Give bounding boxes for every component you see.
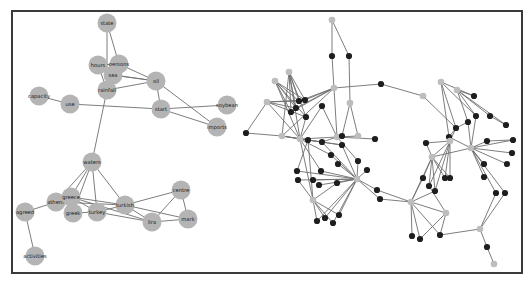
dark-node — [316, 182, 322, 188]
dark-node — [319, 139, 325, 145]
word-node-lira: lira — [143, 213, 162, 232]
dark-node — [328, 152, 334, 158]
word-node-waters: waters — [83, 153, 102, 172]
dark-node — [314, 218, 320, 224]
dark-node — [372, 136, 378, 142]
dark-node — [453, 125, 459, 131]
edge — [342, 145, 357, 179]
dark-node — [302, 97, 308, 103]
light-node — [447, 138, 454, 145]
edge — [411, 178, 423, 202]
edge — [480, 193, 505, 229]
node-label: waters — [83, 159, 101, 165]
dark-node — [509, 150, 515, 156]
light-node — [454, 87, 461, 94]
word-node-greece: greece — [62, 188, 81, 207]
node-label: soybean — [216, 102, 238, 109]
light-node — [443, 210, 450, 217]
dark-node — [484, 244, 490, 250]
node-label: state — [100, 20, 113, 26]
word-node-centre: centre — [172, 181, 191, 200]
dark-node — [296, 98, 302, 104]
edge — [457, 90, 506, 125]
light-node — [438, 79, 445, 86]
edge — [471, 116, 476, 148]
node-label: turkey — [89, 209, 106, 216]
network-diagram: statehourspersonssearainfalloilcapacityu… — [0, 0, 530, 281]
dark-node — [409, 233, 415, 239]
edge — [432, 148, 471, 157]
edge — [440, 229, 480, 235]
dark-node — [465, 119, 471, 125]
word-node-activities: activities — [23, 247, 47, 266]
light-node — [264, 99, 271, 106]
edge — [441, 82, 449, 137]
dark-node — [473, 113, 479, 119]
edge — [322, 106, 337, 137]
dark-node — [319, 103, 325, 109]
dark-node — [305, 137, 311, 143]
node-label: greece — [62, 194, 80, 201]
dark-node — [432, 188, 438, 194]
edge — [300, 117, 306, 139]
dark-node — [295, 177, 301, 183]
word-node-state: state — [98, 14, 117, 33]
word-node-rainfall: rainfall — [98, 81, 117, 100]
word-node-capacity: capacity — [28, 87, 50, 106]
light-node — [310, 197, 317, 204]
node-label: hours — [91, 62, 106, 68]
node-label: centre — [173, 187, 190, 193]
dark-node — [243, 130, 249, 136]
word-node-soybean: soybean — [216, 96, 238, 115]
light-node — [329, 17, 336, 24]
dark-node — [339, 142, 345, 148]
dark-node — [310, 177, 316, 183]
light-node — [477, 226, 484, 233]
dark-node — [303, 114, 309, 120]
node-label: greek — [66, 210, 81, 217]
word-node-start: start — [152, 100, 171, 119]
word-node-imports: imports — [207, 118, 227, 137]
node-label: mark — [181, 216, 194, 222]
light-node — [408, 199, 415, 206]
edge — [322, 142, 357, 179]
word-node-greek: greek — [64, 204, 83, 223]
dark-node — [493, 190, 499, 196]
dark-node — [510, 137, 516, 143]
dark-node — [330, 220, 336, 226]
edge — [411, 191, 435, 202]
dark-node — [374, 187, 380, 193]
light-node — [420, 93, 427, 100]
dark-node — [318, 168, 324, 174]
edge — [246, 102, 267, 133]
edge — [468, 122, 471, 148]
edge — [308, 140, 313, 200]
edge — [92, 90, 107, 162]
node-label: agreed — [16, 209, 34, 216]
light-node — [491, 261, 498, 268]
word-node-oil: oil — [147, 72, 166, 91]
node-label: activities — [23, 253, 47, 259]
dark-node — [329, 53, 335, 59]
word-node-use: use — [61, 95, 80, 114]
edge — [246, 133, 282, 136]
node-label: capacity — [28, 93, 50, 100]
dark-node — [426, 183, 432, 189]
dark-node — [336, 212, 342, 218]
light-node — [347, 100, 354, 107]
edge — [70, 104, 161, 109]
edge — [349, 56, 350, 103]
edge — [334, 84, 381, 88]
edge — [332, 20, 349, 56]
dark-node — [437, 232, 443, 238]
edge — [325, 179, 357, 218]
dark-node — [417, 236, 423, 242]
dark-node — [377, 196, 383, 202]
dark-node — [503, 122, 509, 128]
dark-node — [504, 161, 510, 167]
dark-node — [481, 161, 487, 167]
light-node — [331, 85, 338, 92]
node-label: sea — [108, 72, 117, 78]
edge — [426, 141, 450, 143]
node-label: oil — [153, 78, 159, 84]
